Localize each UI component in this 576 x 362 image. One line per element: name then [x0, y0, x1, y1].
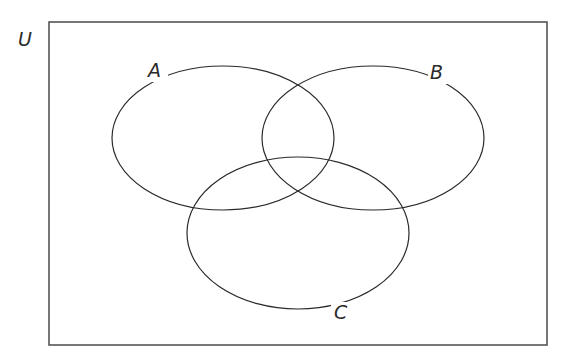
set-b-label: B: [430, 61, 443, 83]
universe-rect: [49, 22, 547, 345]
venn-diagram: U A B C: [0, 0, 576, 362]
set-a-label: A: [146, 59, 161, 81]
universe-label: U: [18, 28, 32, 50]
set-a-ellipse: [112, 66, 334, 210]
set-c-label: C: [334, 301, 348, 323]
set-c-ellipse: [187, 157, 409, 309]
set-b-ellipse: [262, 66, 484, 210]
